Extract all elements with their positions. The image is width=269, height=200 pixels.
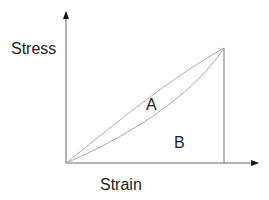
x-axis-label: Strain [100,176,142,194]
unloading-curve [66,48,224,163]
stress-strain-diagram [0,0,269,200]
region-b-label: B [174,134,185,152]
loading-curve [66,48,224,163]
y-axis-label: Stress [11,40,56,58]
region-a-label: A [146,96,157,114]
